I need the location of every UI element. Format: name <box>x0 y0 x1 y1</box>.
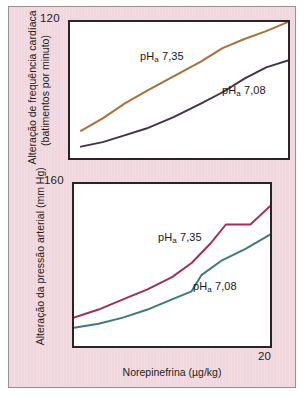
bottom-chart-x-axis-title: Norepinefrina (µg/kg) <box>72 366 272 378</box>
bottom-chart-series-label-ph708-text: pH <box>193 280 207 292</box>
bottom-chart-x-tick-label: 20 <box>258 350 271 362</box>
top-chart-series-label-ph708-text: pH <box>222 84 236 96</box>
top-chart-y-axis-title-line2: (batimentos por minuto) <box>38 17 51 165</box>
bottom-chart-line-ph708 <box>74 235 270 328</box>
bottom-chart-series-label-ph708-subscript: a <box>207 285 212 294</box>
top-chart-series-label-ph735-value: 7,35 <box>159 50 184 62</box>
bottom-chart-y-tick-label: 160 <box>44 174 64 186</box>
bottom-chart-plot-area <box>72 182 272 348</box>
top-chart-series-label-ph735-text: pH <box>140 50 154 62</box>
top-chart-series-label-ph708-value: 7,08 <box>241 84 266 96</box>
bottom-chart-series-label-ph735-subscript: a <box>172 236 177 245</box>
top-chart-line-ph735 <box>81 22 288 131</box>
bottom-chart-series-label-ph708: pHa 7,08 <box>193 280 237 292</box>
bottom-chart-svg <box>74 184 270 346</box>
bottom-chart-series-label-ph735-text: pH <box>158 231 172 243</box>
top-chart-line-ph708 <box>81 61 288 147</box>
figure-root: 120 Alteração de frequência cardíaca (ba… <box>0 0 305 398</box>
top-chart-series-label-ph735-subscript: a <box>154 55 159 64</box>
top-chart-series-label-ph708: pHa 7,08 <box>222 84 266 96</box>
bottom-chart-y-axis-title: Alteração da pressão arterial (mm Hg) <box>34 185 47 345</box>
bottom-chart-series-label-ph708-value: 7,08 <box>212 280 237 292</box>
top-chart-y-axis-title: Alteração de frequência cardíaca (batime… <box>26 17 51 165</box>
bottom-chart-line-ph735 <box>74 206 270 317</box>
top-chart-series-label-ph735: pHa 7,35 <box>140 50 184 62</box>
bottom-chart-series-label-ph735-value: 7,35 <box>177 231 202 243</box>
top-chart-series-label-ph708-subscript: a <box>236 89 241 98</box>
top-chart-y-axis-title-line1: Alteração de frequência cardíaca <box>26 17 39 165</box>
bottom-chart-series-label-ph735: pHa 7,35 <box>158 231 202 243</box>
